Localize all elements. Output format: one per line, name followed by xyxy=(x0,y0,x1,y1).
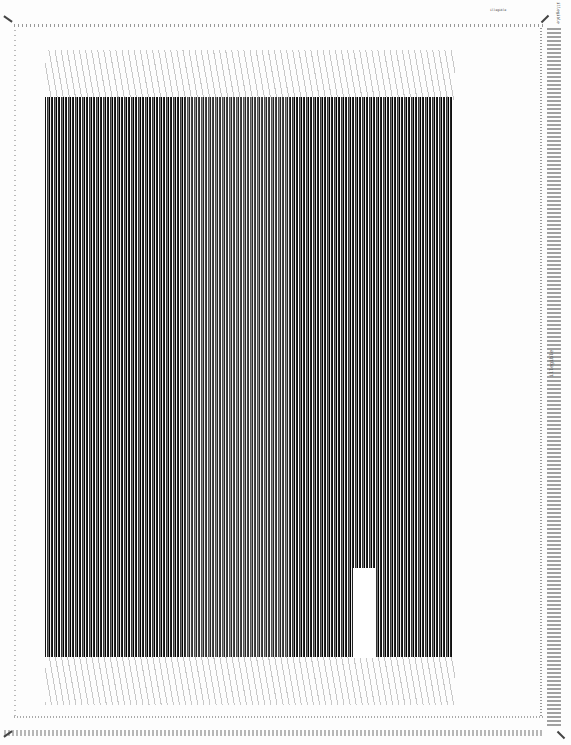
corner-mark-top-right xyxy=(541,15,549,23)
bottom-border-ticks xyxy=(14,716,544,718)
left-border-ticks xyxy=(14,26,16,716)
bottom-pin-labels xyxy=(4,730,544,736)
wire-block-left xyxy=(45,97,185,657)
wire-fringe-top xyxy=(45,50,455,100)
wire-block-center xyxy=(185,97,290,657)
drawing-sheet: illegible illegible illegible xyxy=(0,0,571,745)
empty-region xyxy=(353,568,375,658)
right-border-ticks xyxy=(540,26,542,716)
side-label: illegible xyxy=(548,350,554,377)
title-block: illegible xyxy=(490,8,506,12)
corner-mark-bottom-right xyxy=(557,731,565,739)
wire-fringe-bottom xyxy=(45,655,455,705)
top-border-ticks xyxy=(14,24,544,27)
corner-mark-top-left xyxy=(3,15,12,22)
sheet-number: illegible xyxy=(556,2,561,24)
